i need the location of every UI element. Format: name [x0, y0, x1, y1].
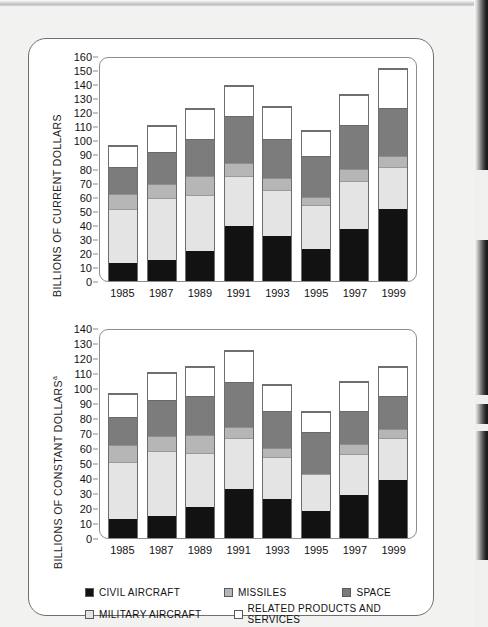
bar-segment-civil	[379, 480, 407, 539]
y-tick-label: 130	[74, 339, 92, 350]
bar-segment-military	[109, 209, 137, 262]
y-tick-label: 90	[80, 399, 92, 410]
y-tick-mark	[93, 509, 98, 510]
y-axis-ticks-bottom: 0102030405060708090100110120130140	[37, 329, 99, 539]
bar-segment-military	[340, 454, 368, 495]
bar-segment-space	[109, 167, 137, 194]
bar-1993	[262, 106, 292, 281]
bar-segment-civil	[186, 507, 214, 539]
bar-segment-related	[263, 107, 291, 139]
bar-segment-military	[186, 195, 214, 251]
legend: CIVIL AIRCRAFT MISSILES SPACE MILITARY A…	[85, 587, 435, 627]
bar-segment-civil	[340, 229, 368, 281]
y-tick-mark	[93, 183, 98, 184]
bar-segment-related	[379, 367, 407, 396]
y-tick-mark	[93, 127, 98, 128]
y-tick-label: 30	[80, 489, 92, 500]
bar-segment-space	[148, 152, 176, 184]
y-tick-mark	[93, 419, 98, 420]
bar-1997	[339, 94, 369, 281]
bar-segment-missiles	[379, 429, 407, 438]
y-axis-ticks-top: 0102030405060708090100110120130140150160	[37, 57, 99, 282]
bar-1991	[224, 85, 254, 281]
legend-row-1: CIVIL AIRCRAFT MISSILES SPACE	[85, 587, 435, 598]
bar-segment-space	[186, 139, 214, 176]
bar-1987	[147, 372, 177, 538]
bar-segment-related	[186, 367, 214, 396]
bar-1995	[301, 411, 331, 538]
y-tick-mark	[93, 57, 98, 58]
legend-swatch-military-aircraft	[85, 610, 94, 619]
bar-segment-military	[302, 474, 330, 512]
bar-segment-military	[302, 205, 330, 249]
bar-segment-related	[340, 382, 368, 411]
y-tick-mark	[93, 449, 98, 450]
legend-label-military-aircraft: MILITARY AIRCRAFT	[99, 609, 201, 620]
bar-1989	[185, 366, 215, 538]
y-tick-mark	[93, 197, 98, 198]
bar-segment-missiles	[186, 435, 214, 453]
y-tick-mark	[93, 359, 98, 360]
bar-1995	[301, 130, 331, 281]
bar-segment-missiles	[148, 184, 176, 198]
y-tick-label: 40	[80, 474, 92, 485]
x-tick-label: 1999	[379, 544, 409, 556]
y-tick-label: 0	[86, 277, 92, 288]
y-tick-label: 110	[74, 369, 92, 380]
x-tick-label: 1985	[107, 287, 137, 299]
x-tick-label: 1989	[185, 287, 215, 299]
x-tick-label: 1997	[340, 287, 370, 299]
y-tick-label: 50	[80, 459, 92, 470]
bar-segment-military	[379, 167, 407, 209]
x-tick-label: 1989	[185, 544, 215, 556]
bar-segment-space	[263, 411, 291, 449]
bar-segment-missiles	[186, 176, 214, 196]
bar-segment-related	[186, 109, 214, 139]
bar-segment-space	[186, 396, 214, 435]
y-tick-mark	[93, 524, 98, 525]
y-tick-mark	[93, 169, 98, 170]
y-tick-label: 110	[74, 122, 92, 133]
x-tick-label: 1991	[224, 287, 254, 299]
y-tick-mark	[93, 239, 98, 240]
bar-1999	[378, 68, 408, 281]
bar-segment-related	[340, 95, 368, 125]
y-tick-mark	[93, 85, 98, 86]
y-tick-label: 120	[74, 108, 92, 119]
bar-segment-space	[379, 108, 407, 156]
x-tick-label: 1993	[262, 287, 292, 299]
bar-segment-military	[225, 176, 253, 227]
y-tick-mark	[93, 479, 98, 480]
bar-1997	[339, 381, 369, 538]
y-tick-mark	[93, 99, 98, 100]
y-tick-mark	[93, 434, 98, 435]
x-tick-label: 1991	[224, 544, 254, 556]
y-tick-mark	[93, 211, 98, 212]
x-tick-label: 1985	[107, 544, 137, 556]
y-tick-label: 60	[80, 192, 92, 203]
bar-1985	[108, 393, 138, 538]
bar-segment-military	[109, 462, 137, 519]
bar-segment-space	[148, 400, 176, 436]
y-tick-mark	[93, 494, 98, 495]
bar-segment-space	[302, 432, 330, 474]
bar-segment-civil	[225, 226, 253, 281]
legend-label-missiles: MISSILES	[238, 587, 287, 598]
bar-segment-space	[225, 116, 253, 162]
bar-segment-related	[148, 373, 176, 400]
x-tick-label: 1987	[146, 544, 176, 556]
y-tick-label: 20	[80, 504, 92, 515]
y-tick-mark	[93, 253, 98, 254]
bar-1987	[147, 125, 177, 281]
y-tick-mark	[93, 374, 98, 375]
bar-segment-civil	[148, 516, 176, 539]
bar-segment-civil	[263, 499, 291, 538]
bar-segment-military	[225, 438, 253, 489]
legend-swatch-missiles	[224, 588, 233, 597]
bar-segment-missiles	[263, 178, 291, 189]
bar-segment-space	[302, 156, 330, 197]
bar-segment-military	[263, 457, 291, 499]
bar-segment-military	[148, 198, 176, 260]
legend-item-space: SPACE	[342, 587, 435, 598]
bar-segment-civil	[109, 263, 137, 281]
